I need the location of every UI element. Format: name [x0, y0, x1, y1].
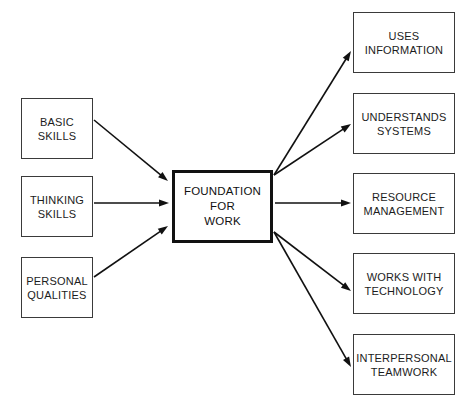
connector-line: [274, 58, 347, 175]
connector-arrow: [94, 200, 169, 207]
output-box-uses-information-label: USES INFORMATION: [363, 29, 445, 57]
connector-arrow: [274, 51, 351, 175]
input-box-basic-skills[interactable]: BASIC SKILLS: [21, 98, 93, 159]
output-box-works-with-technology[interactable]: WORKS WITH TECHNOLOGY: [353, 253, 455, 314]
arrowhead-icon: [341, 124, 351, 132]
input-box-personal-qualities[interactable]: PERSONAL QUALITIES: [21, 257, 93, 318]
output-box-works-with-technology-label: WORKS WITH TECHNOLOGY: [362, 270, 445, 298]
arrowhead-icon: [343, 51, 351, 61]
diagram-canvas: BASIC SKILLS THINKING SKILLS PERSONAL QU…: [0, 0, 473, 410]
connector-line: [94, 120, 162, 176]
output-box-interpersonal-teamwork[interactable]: INTERPERSONAL TEAMWORK: [353, 334, 455, 395]
output-box-understands-systems-label: UNDERSTANDS SYSTEMS: [359, 110, 448, 138]
output-box-understands-systems[interactable]: UNDERSTANDS SYSTEMS: [353, 93, 455, 154]
connector-arrow: [94, 120, 168, 181]
arrowhead-icon: [343, 357, 351, 367]
connector-line: [94, 231, 161, 277]
connector-line: [274, 232, 347, 360]
connector-arrow: [274, 232, 351, 367]
output-box-uses-information[interactable]: USES INFORMATION: [353, 12, 455, 73]
arrowhead-icon: [341, 200, 351, 207]
arrowhead-icon: [341, 282, 351, 291]
arrowhead-icon: [158, 226, 168, 235]
arrowhead-icon: [158, 172, 168, 181]
connector-arrow: [275, 200, 351, 207]
input-box-thinking-skills[interactable]: THINKING SKILLS: [21, 176, 93, 237]
center-box-foundation-for-work[interactable]: FOUNDATION FOR WORK: [172, 170, 273, 243]
input-box-thinking-skills-label: THINKING SKILLS: [28, 193, 86, 221]
center-box-label: FOUNDATION FOR WORK: [182, 184, 263, 229]
connector-arrow: [94, 226, 168, 277]
output-box-resource-management[interactable]: RESOURCE MANAGEMENT: [353, 173, 455, 234]
connector-arrow: [274, 124, 351, 175]
input-box-personal-qualities-label: PERSONAL QUALITIES: [24, 274, 90, 302]
connector-line: [274, 128, 344, 175]
connector-line: [274, 232, 345, 286]
output-box-resource-management-label: RESOURCE MANAGEMENT: [362, 190, 447, 218]
connector-arrow: [274, 232, 351, 291]
arrowhead-icon: [159, 200, 169, 207]
output-box-interpersonal-teamwork-label: INTERPERSONAL TEAMWORK: [354, 351, 454, 379]
input-box-basic-skills-label: BASIC SKILLS: [36, 115, 79, 143]
